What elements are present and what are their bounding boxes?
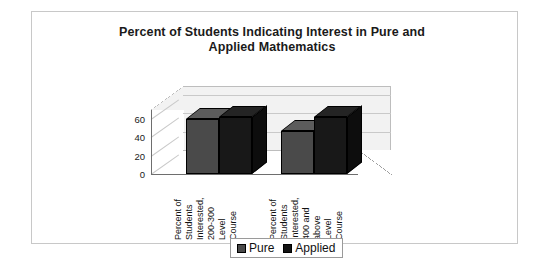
category-label-line: 400 and bbox=[301, 184, 311, 240]
y-tick-label-60: 60 bbox=[123, 115, 145, 124]
category-label-line: Level bbox=[323, 184, 333, 240]
category-label-line: Students bbox=[279, 184, 289, 240]
category-label-line: Interested, bbox=[195, 184, 205, 240]
category-label-line: Interested, bbox=[290, 184, 300, 240]
bar-front-face bbox=[314, 117, 347, 174]
bar-front-face bbox=[281, 131, 314, 174]
category-label-line: Students bbox=[184, 184, 194, 240]
category-label-line: Course bbox=[334, 184, 344, 240]
bar-front-face bbox=[219, 117, 252, 174]
legend-item-pure: Pure bbox=[237, 241, 274, 255]
category-label-line: 200-300 bbox=[206, 184, 216, 240]
legend-item-applied: Applied bbox=[283, 241, 335, 255]
plot-area: 60 40 20 0 bbox=[151, 86, 411, 181]
category-label-line: Percent of bbox=[268, 184, 278, 240]
category-label-line: Level bbox=[217, 184, 227, 240]
category-label-line: Course bbox=[228, 184, 238, 240]
legend-swatch-icon bbox=[283, 244, 292, 253]
legend-swatch-icon bbox=[237, 244, 246, 253]
bar-pure-group-1 bbox=[186, 119, 219, 174]
category-label-group-2: Percent of Students Interested, 400 and … bbox=[268, 184, 344, 240]
chart-legend: Pure Applied bbox=[230, 238, 343, 258]
category-label-line: above bbox=[312, 184, 322, 240]
bar-front-face bbox=[186, 119, 219, 174]
legend-label: Applied bbox=[295, 241, 335, 255]
chart-title: Percent of Students Indicating Interest … bbox=[72, 25, 472, 55]
bar-pure-group-2 bbox=[281, 131, 314, 174]
chart-frame: Percent of Students Indicating Interest … bbox=[31, 11, 518, 244]
chart-title-line-2: Applied Mathematics bbox=[72, 40, 472, 55]
legend-label: Pure bbox=[249, 241, 274, 255]
category-label-line: Percent of bbox=[173, 184, 183, 240]
category-label-group-1: Percent of Students Interested, 200-300 … bbox=[173, 184, 238, 240]
bar-applied-group-2 bbox=[314, 117, 347, 174]
y-tick-label-0: 0 bbox=[123, 170, 145, 179]
bar-side-face bbox=[347, 105, 362, 174]
y-tick-label-40: 40 bbox=[123, 133, 145, 142]
x-axis-baseline bbox=[151, 174, 359, 175]
y-axis-line bbox=[151, 110, 152, 174]
bar-side-face bbox=[252, 105, 267, 174]
y-tick-label-20: 20 bbox=[123, 152, 145, 161]
chart-title-line-1: Percent of Students Indicating Interest … bbox=[119, 25, 425, 39]
bar-applied-group-1 bbox=[219, 117, 252, 174]
